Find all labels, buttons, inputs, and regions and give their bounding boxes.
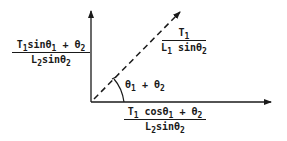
angle-plus: + (136, 79, 154, 90)
vm-den-sin-sub: 2 (202, 47, 207, 56)
vertical-component-numerator: T1sinθ1 + θ2 (15, 40, 88, 52)
vector-magnitude-fraction: T1 L1 sinθ2 (162, 28, 206, 53)
vertical-component-fraction: T1sinθ1 + θ2 L2sinθ2 (12, 40, 90, 65)
vm-den-sin: sinθ (172, 42, 202, 53)
vc-num-sin: sinθ (28, 39, 52, 50)
hc-den-sin: sinθ (156, 121, 180, 132)
vc-den-sin-sub: 2 (66, 59, 71, 68)
vc-num-plus: + θ (56, 39, 80, 50)
horizontal-component-numerator: T1 cosθ1 + θ2 (126, 107, 205, 119)
vector-magnitude-numerator: T1 (177, 28, 192, 40)
angle-sub-2: 2 (160, 84, 165, 93)
hc-den-sin-sub: 2 (180, 126, 185, 135)
hc-num-plus: + θ (173, 106, 197, 117)
horizontal-component-fraction: T1 cosθ1 + θ2 L2sinθ2 (124, 107, 206, 132)
angle-label: θ1 + θ2 (125, 80, 165, 90)
hc-num-cos: cosθ (139, 106, 169, 117)
angle-arc (114, 79, 124, 102)
vertical-component-denominator: L2sinθ2 (31, 53, 71, 65)
vector-magnitude-denominator: L1 sinθ2 (161, 41, 207, 53)
horizontal-component-denominator: L2sinθ2 (145, 120, 185, 132)
vc-den-sin: sinθ (42, 54, 66, 65)
angle-arc-tick (112, 77, 116, 79)
